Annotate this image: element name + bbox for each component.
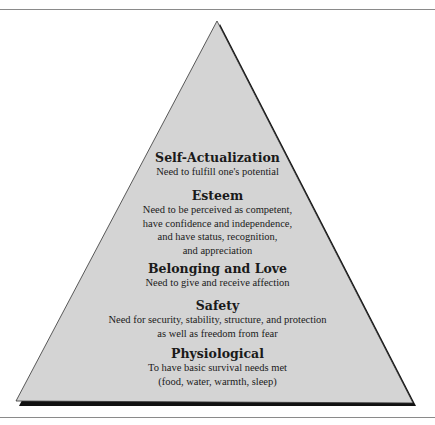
level-description: and appreciation [0,244,435,258]
level-description: have confidence and independence, [0,217,435,231]
level-esteem: Esteem Need to be perceived as competent… [0,188,435,257]
level-physiological: Physiological To have basic survival nee… [0,346,435,388]
level-description: Need to be perceived as competent, [0,203,435,217]
level-description: Need to fulfill one's potential [0,165,435,179]
level-title: Belonging and Love [0,261,435,276]
level-description: To have basic survival needs met [0,361,435,375]
level-belonging-and-love: Belonging and Love Need to give and rece… [0,261,435,290]
bottom-rule [0,417,435,418]
level-title: Self-Actualization [0,150,435,165]
level-title: Safety [0,298,435,313]
level-description: Need to give and receive affection [0,276,435,290]
level-description: as well as freedom from fear [0,327,435,341]
level-title: Physiological [0,346,435,361]
level-safety: Safety Need for security, stability, str… [0,298,435,340]
level-self-actualization: Self-Actualization Need to fulfill one's… [0,150,435,179]
level-description: and have status, recognition, [0,230,435,244]
level-description: Need for security, stability, structure,… [0,313,435,327]
level-description: (food, water, warmth, sleep) [0,375,435,389]
level-title: Esteem [0,188,435,203]
